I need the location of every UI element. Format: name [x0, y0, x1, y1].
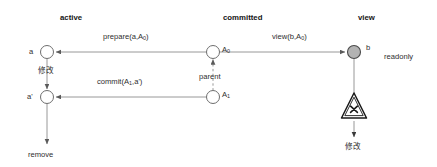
edge-label-commit: commit(A1,a') [97, 78, 142, 87]
node-A0 [207, 46, 220, 59]
warning-triangle-x-icon [342, 93, 367, 118]
edge-label-view: view(b,A0) [272, 33, 307, 42]
node-A1 [207, 91, 220, 104]
annotation-readonly: readonly [384, 53, 413, 61]
edge-label-prepare-tail: ) [146, 32, 149, 41]
edge-label-prepare-text: prepare(a,A [103, 32, 143, 41]
node-b [348, 46, 361, 59]
node-a-prime [41, 91, 54, 104]
edge-label-modify-view: 修改 [345, 143, 361, 151]
edge-label-view-tail: ) [304, 32, 307, 41]
node-label-A1-subscript: 1 [227, 93, 230, 99]
edge-label-commit-tail: ,a') [132, 77, 142, 86]
edge-label-parent: parent [199, 73, 221, 81]
edge-label-remove: remove [28, 151, 53, 159]
edge-label-view-text: view(b,A [272, 32, 301, 41]
node-label-a-prime: a' [27, 93, 33, 101]
column-header-committed: committed [223, 14, 262, 22]
column-header-active: active [60, 14, 82, 22]
node-label-A1: A1 [222, 91, 230, 100]
diagram-canvas: active committed view a a' A0 A1 b prepa… [0, 0, 437, 167]
edge-label-modify-left: 修改 [38, 67, 54, 75]
node-label-b: b [366, 44, 370, 52]
edge-label-commit-text: commit(A [97, 77, 129, 86]
edge-label-prepare: prepare(a,A0) [103, 33, 149, 42]
node-label-A0: A0 [222, 46, 230, 55]
diagram-vector-layer [0, 0, 437, 167]
node-label-a: a [29, 48, 33, 56]
node-label-A0-subscript: 0 [227, 48, 230, 54]
node-a [41, 46, 54, 59]
column-header-view: view [358, 14, 375, 22]
